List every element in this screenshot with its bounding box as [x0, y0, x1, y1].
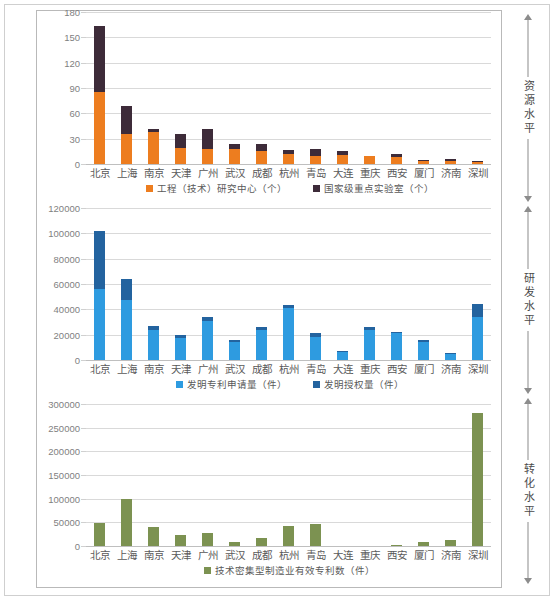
- legend-item[interactable]: 技术密集型制造业有效专利数（件）: [204, 563, 375, 577]
- bar[interactable]: [175, 535, 186, 546]
- bar[interactable]: [229, 340, 240, 360]
- bar-segment: [310, 524, 321, 546]
- bar[interactable]: [94, 231, 105, 360]
- bar-segment: [418, 342, 429, 360]
- bar[interactable]: [175, 134, 186, 164]
- bar-group[interactable]: [464, 404, 491, 546]
- bar-group[interactable]: [329, 12, 356, 164]
- bar[interactable]: [148, 129, 159, 164]
- bar[interactable]: [202, 129, 213, 164]
- bar[interactable]: [364, 156, 375, 164]
- bar-segment: [94, 523, 105, 546]
- bar-group[interactable]: [383, 208, 410, 360]
- bar-group[interactable]: [410, 404, 437, 546]
- bar-group[interactable]: [194, 208, 221, 360]
- x-axis-labels: 北京上海南京天津广州武汉成都杭州青岛大连重庆西安厦门济南深圳: [86, 546, 491, 562]
- bar-group[interactable]: [383, 12, 410, 164]
- bar-group[interactable]: [221, 404, 248, 546]
- bar-group[interactable]: [221, 208, 248, 360]
- bar-group[interactable]: [329, 404, 356, 546]
- bar[interactable]: [94, 523, 105, 546]
- legend-item[interactable]: 发明授权量（件）: [313, 377, 404, 391]
- bar[interactable]: [472, 413, 483, 546]
- bar-group[interactable]: [437, 12, 464, 164]
- bar[interactable]: [202, 533, 213, 546]
- bar-group[interactable]: [464, 12, 491, 164]
- x-tick-label: 上海: [113, 547, 140, 562]
- bar-group[interactable]: [113, 404, 140, 546]
- bar[interactable]: [148, 326, 159, 360]
- bar-group[interactable]: [410, 208, 437, 360]
- bar[interactable]: [94, 26, 105, 164]
- bar[interactable]: [283, 150, 294, 164]
- bar[interactable]: [202, 317, 213, 360]
- bar-group[interactable]: [356, 404, 383, 546]
- bar-group[interactable]: [86, 404, 113, 546]
- bar-group[interactable]: [221, 12, 248, 164]
- bar-group[interactable]: [275, 12, 302, 164]
- bar-group[interactable]: [356, 208, 383, 360]
- bar[interactable]: [256, 538, 267, 546]
- bar-group[interactable]: [302, 12, 329, 164]
- bar-segment: [202, 149, 213, 164]
- legend-item[interactable]: 国家级重点实验室（个）: [313, 181, 434, 195]
- legend-item[interactable]: 发明专利申请量（件）: [176, 377, 287, 391]
- bar[interactable]: [472, 304, 483, 360]
- bar[interactable]: [310, 149, 321, 164]
- bar-group[interactable]: [113, 12, 140, 164]
- bar-group[interactable]: [194, 12, 221, 164]
- bar-group[interactable]: [437, 404, 464, 546]
- bar[interactable]: [310, 333, 321, 360]
- bar[interactable]: [391, 154, 402, 164]
- bar-group[interactable]: [248, 404, 275, 546]
- bar[interactable]: [310, 524, 321, 546]
- bar-group[interactable]: [275, 404, 302, 546]
- bar[interactable]: [148, 527, 159, 546]
- bar-group[interactable]: [383, 404, 410, 546]
- bar-group[interactable]: [437, 208, 464, 360]
- bar-group[interactable]: [248, 208, 275, 360]
- bar-group[interactable]: [167, 404, 194, 546]
- bar-segment: [391, 333, 402, 360]
- side-annotations: 资源水平 研发水平 转化水平: [506, 10, 550, 588]
- legend-item[interactable]: 工程（技术）研究中心（个）: [146, 181, 287, 195]
- bar[interactable]: [121, 499, 132, 546]
- bar[interactable]: [283, 305, 294, 360]
- side-label: 资源水平: [523, 77, 534, 139]
- bar-group[interactable]: [140, 208, 167, 360]
- bar-group[interactable]: [167, 12, 194, 164]
- bar[interactable]: [337, 351, 348, 360]
- bar[interactable]: [337, 151, 348, 164]
- bar-segment: [121, 499, 132, 546]
- bar[interactable]: [121, 279, 132, 360]
- bar[interactable]: [391, 332, 402, 360]
- bar-group[interactable]: [302, 404, 329, 546]
- bar-group[interactable]: [464, 208, 491, 360]
- x-tick-label: 济南: [437, 547, 464, 562]
- bar-group[interactable]: [167, 208, 194, 360]
- bar[interactable]: [445, 353, 456, 360]
- bar[interactable]: [283, 526, 294, 546]
- bar-group[interactable]: [113, 208, 140, 360]
- bar[interactable]: [364, 327, 375, 360]
- bar[interactable]: [121, 106, 132, 164]
- bar-group[interactable]: [194, 404, 221, 546]
- bar-group[interactable]: [302, 208, 329, 360]
- bar-group[interactable]: [275, 208, 302, 360]
- bar-group[interactable]: [86, 208, 113, 360]
- bar[interactable]: [175, 335, 186, 360]
- y-tick-label: 20000: [54, 329, 80, 340]
- bar-group[interactable]: [329, 208, 356, 360]
- bar-group[interactable]: [140, 12, 167, 164]
- y-tick-label: 100000: [48, 493, 80, 504]
- x-tick-label: 济南: [437, 165, 464, 180]
- bar[interactable]: [229, 144, 240, 164]
- bar[interactable]: [256, 327, 267, 360]
- bar-group[interactable]: [356, 12, 383, 164]
- bar-group[interactable]: [86, 12, 113, 164]
- bar[interactable]: [256, 144, 267, 164]
- bar-group[interactable]: [140, 404, 167, 546]
- bar[interactable]: [418, 340, 429, 360]
- bar-group[interactable]: [410, 12, 437, 164]
- bar-group[interactable]: [248, 12, 275, 164]
